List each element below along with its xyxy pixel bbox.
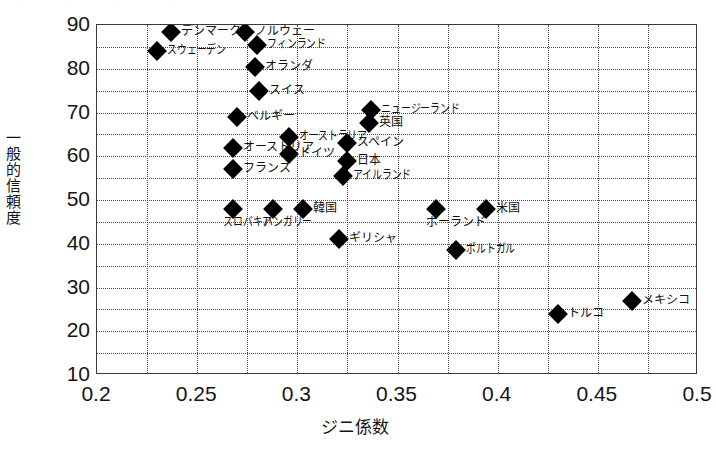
x-axis-title: ジニ係数 (0, 418, 710, 438)
x-tick-label: 0.3 (261, 382, 331, 406)
diamond-marker-icon (223, 138, 243, 158)
plot-area: デンマークノルウェースウェーデンフィンランドオランダスイスベルギーオーストラリア… (96, 24, 697, 374)
diamond-marker-icon (329, 229, 349, 249)
y-tick-label: 30 (44, 276, 90, 297)
x-axis-tick-labels: 0.20.250.30.350.40.450.5 (0, 382, 710, 412)
data-point-label: ニュージーランド (381, 103, 460, 116)
y-axis-title-char: 度 (2, 210, 24, 226)
data-point-label: フィンランド (267, 38, 326, 51)
data-point-label: ノルウェー (255, 25, 315, 38)
data-points-layer: デンマークノルウェースウェーデンフィンランドオランダスイスベルギーオーストラリア… (97, 25, 696, 373)
y-tick-label: 20 (44, 319, 90, 340)
y-axis-title-char: 信 (2, 178, 24, 194)
data-point-label: デンマーク (181, 25, 241, 38)
x-tick-label: 0.35 (362, 382, 432, 406)
y-tick-label: 10 (44, 363, 90, 384)
diamond-marker-icon (223, 159, 243, 179)
diamond-marker-icon (446, 240, 466, 260)
y-tick-label: 50 (44, 188, 90, 209)
data-point-label: メキシコ (642, 294, 690, 307)
data-point-label: スウェーデン (167, 44, 226, 57)
y-axis-title-char: 頼 (2, 194, 24, 210)
diamond-marker-icon (334, 166, 354, 186)
data-point-label: オランダ (265, 60, 313, 73)
data-point-label: 韓国 (313, 202, 337, 215)
data-point-label: ベルギー (247, 110, 295, 123)
diamond-marker-icon (548, 304, 568, 324)
y-axis-title-char: 般 (2, 146, 24, 162)
y-axis-title-char: 一 (2, 130, 24, 146)
diamond-marker-icon (622, 291, 642, 311)
data-point-label: 英国 (379, 116, 403, 129)
x-tick-label: 0.25 (161, 382, 231, 406)
diamond-marker-icon (147, 41, 167, 61)
data-point-label: スイス (269, 84, 305, 97)
diamond-marker-icon (245, 57, 265, 77)
data-point-label: ポーランド (426, 216, 486, 229)
data-point-label: フランス (243, 162, 291, 175)
data-point-label: ドイツ (299, 147, 335, 160)
y-tick-label: 80 (44, 57, 90, 78)
data-point-label: 日本 (357, 154, 381, 167)
y-axis-title: 一般的信頼度 (2, 130, 24, 226)
x-tick-label: 0.2 (61, 382, 131, 406)
data-point-label: スペイン (357, 136, 404, 149)
data-point-label: 米国 (496, 202, 520, 215)
y-tick-label: 40 (44, 232, 90, 253)
data-point-label: ポルトガル (466, 243, 515, 256)
y-tick-label: 70 (44, 101, 90, 122)
diamond-marker-icon (161, 25, 181, 41)
data-point-label: ハンガリー (263, 216, 312, 229)
x-tick-label: 0.45 (562, 382, 632, 406)
diamond-marker-icon (249, 81, 269, 101)
data-point-label: アイルランド (353, 169, 411, 182)
y-tick-label: 90 (44, 13, 90, 34)
diamond-marker-icon (247, 35, 267, 55)
x-tick-label: 0.4 (462, 382, 532, 406)
data-point-label: トルコ (568, 307, 604, 320)
x-tick-label: 0.5 (662, 382, 716, 406)
data-point-label: ギリシャ (349, 232, 397, 245)
y-tick-label: 60 (44, 144, 90, 165)
y-axis-title-char: 的 (2, 162, 24, 178)
diamond-marker-icon (227, 107, 247, 127)
